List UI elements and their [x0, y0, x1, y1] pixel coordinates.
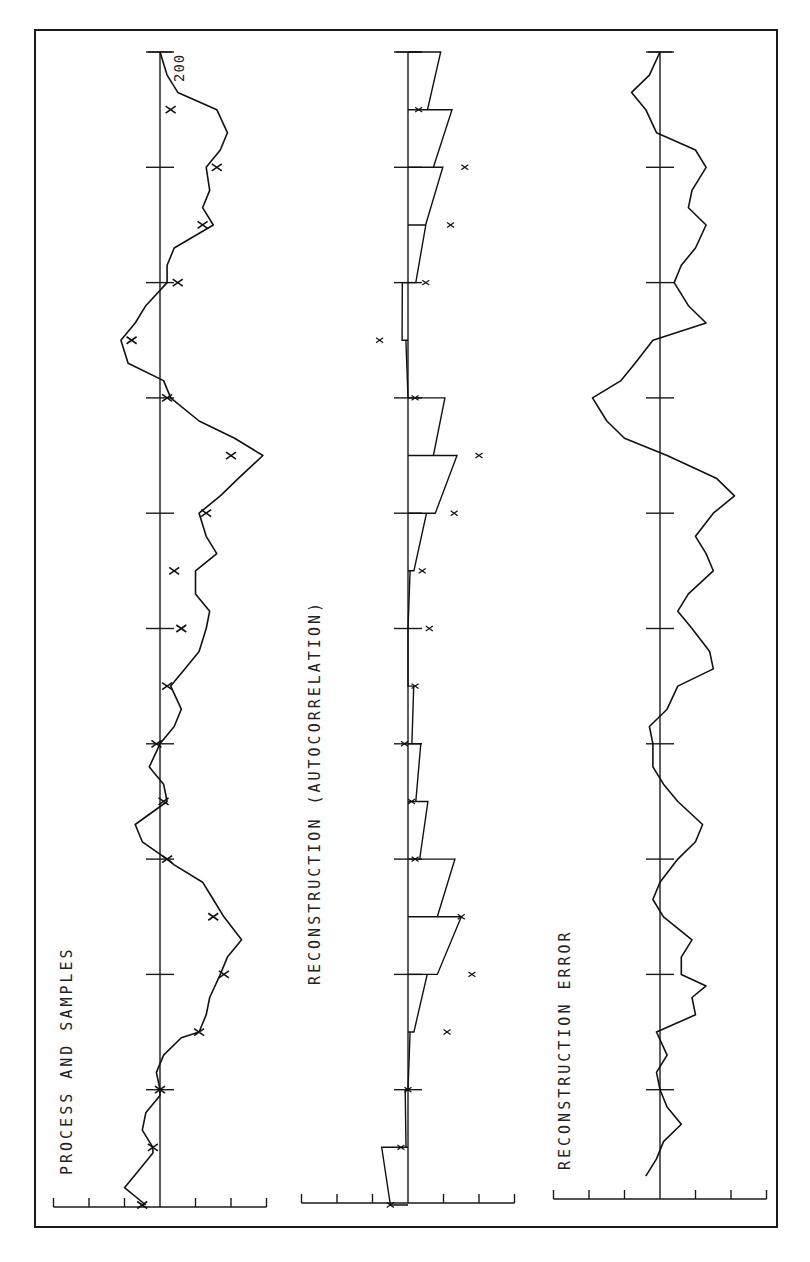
sample-marker [451, 511, 458, 516]
sample-marker [422, 280, 429, 285]
sample-marker [419, 568, 426, 573]
panel-title-reconstruction: RECONSTRUCTION (AUTOCORRELATION) [306, 600, 324, 985]
panel-process-and-samples [54, 52, 267, 1209]
sample-marker [444, 1030, 451, 1035]
sample-marker [461, 165, 468, 170]
sample-marker [447, 223, 454, 228]
sample-marker [169, 567, 179, 574]
sample-marker [166, 106, 176, 113]
sample-marker [376, 338, 383, 343]
sample-marker [212, 164, 222, 171]
sample-marker [208, 913, 218, 920]
sample-marker [426, 626, 433, 631]
panel-title-error: RECONSTRUCTION ERROR [556, 929, 574, 1170]
sample-marker [127, 337, 137, 344]
sample-marker [176, 625, 186, 632]
panel-title-process: PROCESS AND SAMPLES [58, 946, 76, 1175]
error-trace [593, 52, 735, 1176]
process-trace [121, 52, 263, 1205]
time-end-label: 200 [171, 54, 187, 82]
sample-marker [226, 452, 236, 459]
sample-marker [194, 1029, 204, 1036]
sample-marker [476, 453, 483, 458]
figure-canvas: PROCESS AND SAMPLES RECONSTRUCTION (AUTO… [0, 0, 810, 1262]
panel-reconstruction-error [554, 52, 767, 1199]
sample-marker [468, 972, 475, 977]
sample-marker [201, 510, 211, 517]
sample-marker [173, 279, 183, 286]
sample-marker [198, 221, 208, 228]
panel-reconstruction-autocorrelation [302, 52, 515, 1207]
